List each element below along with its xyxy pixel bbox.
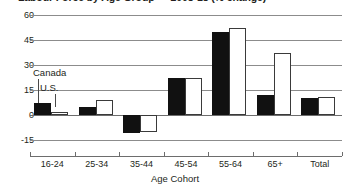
x-axis-label-55-64: 55-64 <box>209 159 253 169</box>
x-axis-label-65-: 65+ <box>253 159 297 169</box>
bar-series-container <box>30 15 342 140</box>
bar-group-55-64 <box>208 15 253 140</box>
legend-leader-line-canada <box>38 79 39 103</box>
legend-leader-line-us <box>55 94 56 107</box>
x-axis-tickmark-2 <box>119 152 120 156</box>
bar-us-16-24 <box>51 112 68 115</box>
bar-group-35-44 <box>119 15 164 140</box>
x-axis-title: Age Cohort <box>0 173 350 184</box>
bar-canada-55-64 <box>212 32 229 115</box>
x-axis-label-35-44: 35-44 <box>119 159 163 169</box>
legend-label-us: U.S. <box>40 83 58 93</box>
x-axis-tickmark-0 <box>30 152 31 156</box>
x-axis-tickmark-3 <box>164 152 165 156</box>
bar-us-25-34 <box>96 100 113 115</box>
bar-canada-65- <box>257 95 274 115</box>
chart-figure: Labour Force by Age Group — 2008-18 (% c… <box>0 0 350 189</box>
x-axis-label-25-34: 25-34 <box>75 159 119 169</box>
gridline-neg15 <box>30 140 342 141</box>
bar-group-25-34 <box>75 15 120 140</box>
x-axis-line <box>30 156 342 157</box>
bar-group-total <box>297 15 342 140</box>
x-axis-tickmark-5 <box>253 152 254 156</box>
bar-canada-45-54 <box>168 78 185 115</box>
x-axis-label-16-24: 16-24 <box>30 159 74 169</box>
bar-us-35-44 <box>140 115 157 132</box>
bar-canada-35-44 <box>123 115 140 133</box>
chart-title: Labour Force by Age Group — 2008-18 (% c… <box>18 0 348 5</box>
bar-us-65- <box>274 53 291 115</box>
bar-canada-total <box>301 98 318 115</box>
bar-us-total <box>318 97 335 115</box>
bar-us-55-64 <box>229 28 246 115</box>
x-axis-label-45-54: 45-54 <box>164 159 208 169</box>
bar-group-65- <box>253 15 298 140</box>
bar-canada-16-24 <box>34 103 51 115</box>
bar-canada-25-34 <box>79 107 96 115</box>
plot-area <box>30 15 342 140</box>
x-axis-tickmark-end <box>342 152 343 156</box>
bar-us-45-54 <box>185 78 202 115</box>
x-axis-label-total: Total <box>298 159 342 169</box>
legend-label-canada: Canada <box>33 68 66 78</box>
x-axis-tickmark-1 <box>75 152 76 156</box>
x-axis-tickmark-6 <box>297 152 298 156</box>
bar-group-45-54 <box>164 15 209 140</box>
x-axis-tickmark-4 <box>208 152 209 156</box>
